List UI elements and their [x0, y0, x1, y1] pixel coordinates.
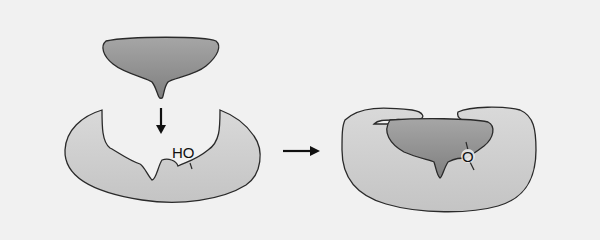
substrate-free	[103, 37, 219, 98]
enzyme-substrate-complex	[342, 107, 536, 212]
reaction-arrow-right-icon	[283, 146, 320, 156]
diagram-canvas: HO O	[0, 0, 600, 240]
enzyme-open	[65, 110, 260, 202]
ester-oxygen-label: O	[462, 148, 474, 165]
hydroxyl-group-label: HO	[172, 144, 195, 161]
binding-arrow-down-icon	[156, 108, 166, 134]
